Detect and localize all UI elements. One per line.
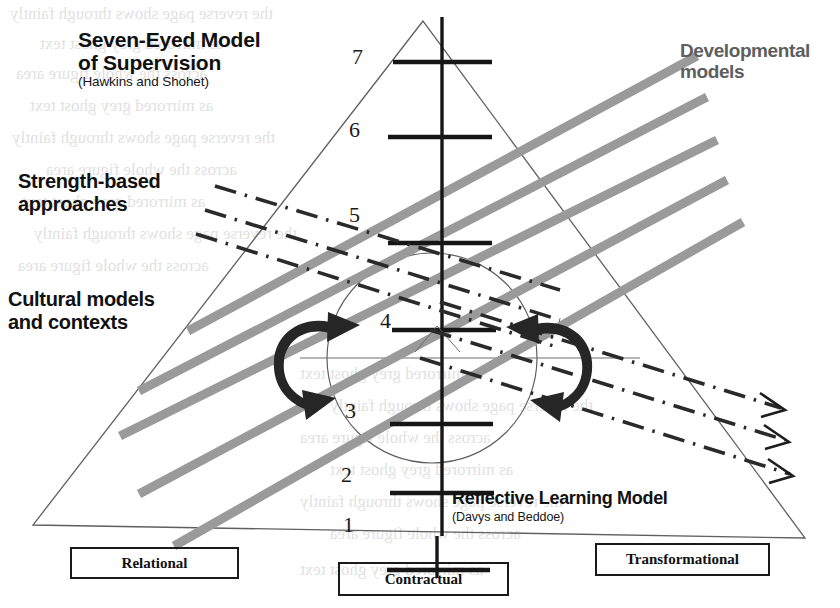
figure-title: Seven-Eyed Model of Supervision [78, 28, 308, 74]
cultural-models-line1: Cultural models [8, 288, 208, 311]
developmental-bands [120, 56, 743, 546]
figure-title-line1: Seven-Eyed Model [78, 28, 308, 51]
figure-title-line2: of Supervision [78, 51, 308, 74]
cultural-models-line2: and contexts [8, 311, 208, 334]
strength-based-label: Strength-based approaches [18, 170, 208, 216]
developmental-models-label: Developmental models [680, 40, 840, 82]
ladder-number-2: 2 [341, 462, 352, 488]
ladder-number-5: 5 [349, 202, 360, 228]
strength-based-line1: Strength-based [18, 170, 208, 193]
ladder-number-7: 7 [352, 44, 363, 70]
cycle-arrow-right [506, 314, 592, 422]
ladder-number-3: 3 [345, 398, 356, 424]
developmental-models-line1: Developmental [680, 40, 840, 61]
base-box-contractual[interactable]: Contractual [338, 562, 509, 596]
developmental-models-line2: models [680, 61, 840, 82]
strength-based-line2: approaches [18, 193, 208, 216]
ladder-number-4: 4 [380, 308, 391, 334]
reflective-learning-model-source: (Davys and Beddoe) [452, 510, 564, 524]
base-box-contractual-label: Contractual [385, 571, 463, 588]
figure-title-source: (Hawkins and Shohet) [78, 74, 209, 90]
figure-canvas: the reverse page shows through faintly a… [0, 0, 840, 608]
developmental-band [139, 180, 727, 494]
ladder-number-1: 1 [343, 512, 354, 538]
base-box-transformational[interactable]: Transformational [595, 543, 770, 576]
cultural-models-line [440, 302, 781, 408]
base-box-relational-label: Relational [122, 555, 188, 572]
reflective-learning-model-label: Reflective Learning Model [452, 489, 668, 508]
arrowhead [768, 459, 793, 483]
cultural-models-line [420, 358, 790, 474]
ladder-number-6: 6 [349, 117, 360, 143]
base-box-transformational-label: Transformational [626, 551, 739, 568]
base-box-relational[interactable]: Relational [70, 547, 239, 579]
triangle-outline [33, 21, 805, 538]
cultural-models-label: Cultural models and contexts [8, 288, 208, 334]
arrowhead [764, 425, 789, 449]
